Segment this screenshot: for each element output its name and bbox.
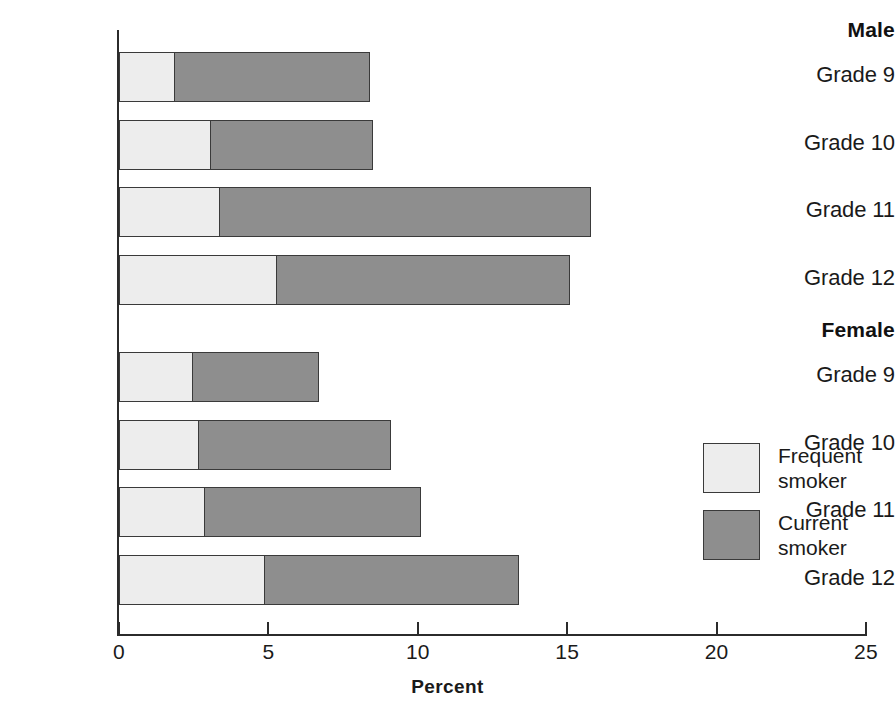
bar-segment-current-smoker (174, 52, 370, 102)
bar-segment-current-smoker (210, 120, 373, 170)
bar-row (119, 555, 519, 605)
x-axis-title: Percent (0, 676, 895, 698)
bar-row (119, 487, 421, 537)
bar-segment-current-smoker (204, 487, 421, 537)
bar-row (119, 52, 370, 102)
bar-segment-frequent-smoker (119, 487, 206, 537)
bar-row (119, 352, 319, 402)
category-label: Grade 12 (783, 265, 895, 291)
bar-segment-current-smoker (198, 420, 391, 470)
category-label: Grade 11 (783, 197, 895, 223)
bar-segment-frequent-smoker (119, 352, 194, 402)
bar-segment-frequent-smoker (119, 120, 212, 170)
bar-segment-current-smoker (192, 352, 319, 402)
bar-segment-current-smoker (219, 187, 591, 237)
bar-row (119, 255, 570, 305)
x-tick-label: 10 (406, 640, 430, 664)
chart-container: 0510152025 MaleGrade 9Grade 10Grade 11Gr… (0, 0, 895, 710)
x-tick-mark (716, 622, 718, 635)
x-axis-line (117, 634, 867, 636)
x-tick-label: 0 (113, 640, 125, 664)
legend-item: Frequentsmoker (703, 443, 862, 493)
legend-label-line2: smoker (778, 535, 848, 560)
x-tick-label: 25 (854, 640, 878, 664)
x-tick-mark (417, 622, 419, 635)
bar-row (119, 120, 373, 170)
legend-item: Currentsmoker (703, 510, 862, 560)
x-tick-label: 15 (555, 640, 579, 664)
x-tick-label: 20 (705, 640, 729, 664)
bar-segment-current-smoker (276, 255, 570, 305)
legend-swatch-icon (703, 510, 760, 560)
bar-segment-frequent-smoker (119, 255, 277, 305)
x-tick-label: 5 (262, 640, 274, 664)
legend-swatch-icon (703, 443, 760, 493)
x-tick-mark (118, 622, 120, 635)
legend-label: Currentsmoker (778, 510, 848, 560)
legend-label-line1: Frequent (778, 443, 862, 468)
bar-segment-frequent-smoker (119, 555, 265, 605)
bar-segment-current-smoker (264, 555, 520, 605)
legend-label-line2: smoker (778, 468, 862, 493)
bar-row (119, 420, 391, 470)
legend-label: Frequentsmoker (778, 443, 862, 493)
x-tick-mark (566, 622, 568, 635)
x-tick-mark (865, 622, 867, 635)
category-label: Grade 9 (783, 62, 895, 88)
chart-legend: FrequentsmokerCurrentsmoker (703, 443, 862, 577)
bar-segment-frequent-smoker (119, 187, 221, 237)
x-tick-mark (267, 622, 269, 635)
category-label: Grade 10 (783, 130, 895, 156)
category-label: Grade 9 (783, 362, 895, 388)
group-label-male: Male (783, 18, 895, 42)
group-label-female: Female (783, 318, 895, 342)
bar-segment-frequent-smoker (119, 52, 176, 102)
bar-segment-frequent-smoker (119, 420, 200, 470)
legend-label-line1: Current (778, 510, 848, 535)
bar-row (119, 187, 591, 237)
